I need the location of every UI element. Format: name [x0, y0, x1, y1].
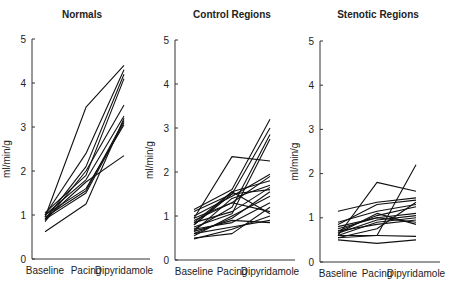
- data-series-line: [45, 116, 124, 215]
- y-axis-label: ml/min/g: [144, 141, 155, 179]
- y-tick-label: 2: [163, 167, 169, 178]
- y-tick-label: 1: [163, 211, 169, 222]
- y-tick-label: 0: [163, 255, 169, 266]
- data-series-line: [338, 240, 416, 244]
- panel-title: Normals: [62, 9, 102, 20]
- y-tick-label: 0: [20, 254, 26, 265]
- x-tick-label: Baseline: [319, 268, 358, 279]
- panel-normals: Normals 012345ml/min/gBaselinePacingDipy…: [1, 9, 154, 276]
- panel-title: Control Regions: [193, 9, 271, 20]
- figure: Normals 012345ml/min/gBaselinePacingDipy…: [0, 0, 455, 287]
- x-tick-label: Baseline: [175, 266, 214, 277]
- chart-canvas: Normals 012345ml/min/gBaselinePacingDipy…: [0, 0, 455, 287]
- y-tick-label: 1: [20, 210, 26, 221]
- y-tick-label: 3: [308, 124, 314, 135]
- y-tick-label: 1: [308, 212, 314, 223]
- y-tick-label: 4: [163, 79, 169, 90]
- y-tick-label: 0: [308, 257, 314, 268]
- x-tick-label: Dipyridamole: [95, 265, 154, 276]
- x-tick-label: Dipyridamole: [387, 268, 446, 279]
- y-axis-label: ml/min/g: [289, 143, 300, 181]
- axes-frame: [320, 41, 440, 262]
- data-series-line: [338, 236, 416, 237]
- y-tick-label: 2: [308, 168, 314, 179]
- y-axis-label: ml/min/g: [1, 140, 12, 178]
- panel-stenotic-regions: Stenotic Regions 012345ml/min/gBaselineP…: [289, 9, 446, 279]
- axes-frame: [32, 39, 150, 259]
- panel-title: Stenotic Regions: [337, 9, 419, 20]
- panel-control-regions: Control Regions 012345ml/min/gBaselinePa…: [144, 9, 300, 277]
- y-tick-label: 4: [308, 80, 314, 91]
- y-tick-label: 3: [20, 122, 26, 133]
- y-tick-label: 3: [163, 123, 169, 134]
- y-tick-label: 4: [20, 78, 26, 89]
- y-tick-label: 5: [20, 34, 26, 45]
- x-tick-label: Dipyridamole: [241, 266, 300, 277]
- data-series-line: [194, 187, 270, 222]
- y-tick-label: 5: [308, 36, 314, 47]
- y-tick-label: 5: [163, 35, 169, 46]
- x-tick-label: Baseline: [26, 265, 65, 276]
- y-tick-label: 2: [20, 166, 26, 177]
